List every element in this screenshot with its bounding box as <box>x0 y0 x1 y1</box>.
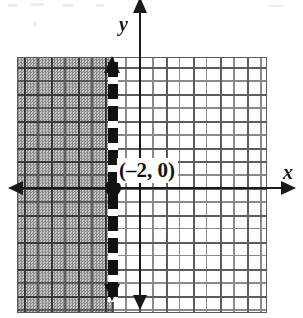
y-axis-up-arrow-icon <box>133 0 147 13</box>
y-axis <box>139 10 141 298</box>
scan-speckle <box>96 4 104 7</box>
scan-speckle <box>268 5 284 7</box>
x-axis-right-arrow-icon <box>281 181 296 195</box>
scan-speckle <box>33 22 37 26</box>
scan-speckle <box>62 4 74 7</box>
scan-speckle <box>8 4 18 7</box>
shaded-solution-region <box>17 57 113 313</box>
y-axis-label: y <box>119 14 128 34</box>
x-axis <box>20 187 292 189</box>
x-axis-label: x <box>283 162 293 182</box>
scan-speckle <box>30 3 44 6</box>
coordinate-plane <box>17 57 267 313</box>
figure-canvas: y x (–2, 0) <box>0 0 303 318</box>
y-axis-down-arrow-icon <box>133 295 147 310</box>
x-axis-left-arrow-icon <box>8 181 23 195</box>
plotted-point-label: (–2, 0) <box>117 158 178 183</box>
boundary-line-down-arrow-icon <box>104 284 120 301</box>
